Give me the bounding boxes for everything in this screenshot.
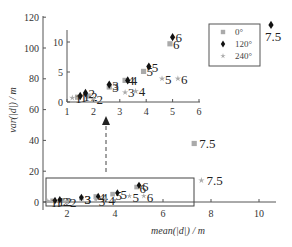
legend-entry-label: 0° <box>235 27 244 37</box>
inset-point-label: 5 <box>152 60 159 75</box>
point-label: 3 <box>84 192 91 207</box>
inset-point-label: 3 <box>128 85 135 100</box>
star-marker <box>127 193 133 198</box>
y-axis-label: var(|d|) / m <box>7 87 19 133</box>
point-label: 5 <box>120 187 127 202</box>
inset-x-tick-label: 4 <box>144 106 149 117</box>
y-tick-label: 40 <box>29 135 39 146</box>
diamond-marker <box>268 21 273 29</box>
point-label: 6 <box>147 190 154 205</box>
square-marker <box>192 141 197 146</box>
x-tick-label: 6 <box>161 208 166 219</box>
inset-point-label: 2 <box>96 92 103 107</box>
inset-point-label: 6 <box>176 30 183 45</box>
inset-y-tick-label: 10 <box>53 37 63 48</box>
y-tick-label: 60 <box>29 104 39 115</box>
point-label: 7.5 <box>206 173 222 188</box>
inset-point-label: 5 <box>165 72 172 87</box>
inset-y-tick-label: 0 <box>58 97 63 108</box>
inset-x-tick-label: 3 <box>117 106 122 117</box>
inset-point-label: 4 <box>139 84 146 99</box>
square-marker <box>141 69 146 74</box>
arrow-up-icon <box>102 116 110 125</box>
square-marker <box>167 41 172 46</box>
star-marker <box>198 177 204 183</box>
y-tick-label: 20 <box>29 166 39 177</box>
inset-x-tick-label: 2 <box>91 106 96 117</box>
y-tick-label: 100 <box>24 43 39 54</box>
point-label: 5 <box>132 190 139 205</box>
point-label: 7.5 <box>265 29 281 44</box>
inset-x-tick-label: 6 <box>197 106 202 117</box>
inset-axes: 0510123456123456123456123456 <box>53 30 202 117</box>
legend-entry-label: 120° <box>235 39 253 49</box>
x-tick-label: 10 <box>254 208 264 219</box>
square-marker <box>221 30 225 34</box>
inset-point-label: 1 <box>75 91 82 106</box>
y-tick-label: 80 <box>29 73 39 84</box>
inset-x-tick-label: 5 <box>170 106 175 117</box>
x-tick-label: 4 <box>113 208 118 219</box>
y-tick-label: 120 <box>24 12 39 23</box>
x-tick-label: 8 <box>209 208 214 219</box>
scatter-chart: 0204060801001202468101234567.51234567.51… <box>0 0 292 247</box>
legend: 0°120°240° <box>209 24 260 66</box>
point-label: 1 <box>51 195 58 210</box>
point-label: 2 <box>70 195 77 210</box>
point-label: 7.5 <box>199 136 215 151</box>
inset-y-tick-label: 5 <box>58 67 63 78</box>
legend-entry-label: 240° <box>235 51 253 61</box>
y-tick-label: 0 <box>34 197 39 208</box>
point-label: 4 <box>108 193 115 208</box>
inset-x-tick-label: 1 <box>65 106 70 117</box>
x-axis-label: mean(|d|) / m <box>151 225 205 237</box>
inset-point-label: 6 <box>181 72 188 87</box>
x-tick-label: 2 <box>65 208 70 219</box>
inset-point-label: 3 <box>112 78 119 93</box>
